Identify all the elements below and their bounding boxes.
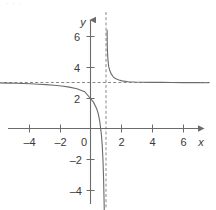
y-axis-label: y xyxy=(79,16,87,28)
x-tick-label-minus2: –2 xyxy=(54,136,66,148)
y-tick-label-4: 4 xyxy=(74,62,80,74)
curve-right-branch xyxy=(107,30,209,83)
y-tick-label-minus4: –4 xyxy=(70,185,82,197)
plot-canvas: –4 –2 0 2 4 6 6 4 2 –2 –4 y x xyxy=(0,0,216,210)
y-tick-label-6: 6 xyxy=(74,31,80,43)
x-tick-label-minus4: –4 xyxy=(23,136,35,148)
x-tick-label-zero: 0 xyxy=(81,136,87,148)
asymptote-group xyxy=(4,12,212,208)
x-tick-label-6: 6 xyxy=(180,136,186,148)
y-tick-label-group: 6 4 2 –2 –4 xyxy=(70,31,82,197)
y-tick-label-minus2: –2 xyxy=(70,154,82,166)
x-tick-label-group: –4 –2 0 2 4 6 xyxy=(23,136,186,148)
y-tick-label-2: 2 xyxy=(74,93,80,105)
x-axis-label: x xyxy=(197,136,204,148)
rational-function-graph-figure: · · · xyxy=(0,0,216,210)
x-tick-label-2: 2 xyxy=(118,136,124,148)
curve-group xyxy=(0,30,209,210)
x-tick-label-4: 4 xyxy=(149,136,155,148)
